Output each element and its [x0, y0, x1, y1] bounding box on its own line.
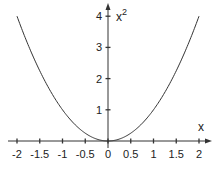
x-axis-arrow-icon [205, 139, 212, 144]
y-axis-arrow-icon [106, 3, 111, 10]
x-tick-label: 1.5 [169, 148, 184, 160]
y-tick-label: 4 [96, 10, 102, 22]
parabola-chart: -2-1.5-1-0.500.511.52 1234 x x2 [0, 0, 218, 172]
x-tick-label: -1 [58, 148, 68, 160]
x-tick-label: -1.5 [30, 148, 49, 160]
x-tick-label: -2 [12, 148, 22, 160]
x-axis-label: x [198, 120, 204, 134]
x-tick-label: 0 [105, 148, 111, 160]
y-tick-label: 2 [96, 73, 102, 85]
y-axis-label: x2 [116, 7, 127, 24]
y-tick-label: 1 [96, 104, 102, 116]
x-tick-label: 1 [150, 148, 156, 160]
x-tick-label: 2 [196, 148, 202, 160]
y-axis [106, 3, 111, 148]
x-tick-label: -0.5 [76, 148, 95, 160]
y-tick-label: 3 [96, 41, 102, 53]
x-tick-label: 0.5 [123, 148, 138, 160]
x-ticks: -2-1.5-1-0.500.511.52 [12, 139, 202, 161]
